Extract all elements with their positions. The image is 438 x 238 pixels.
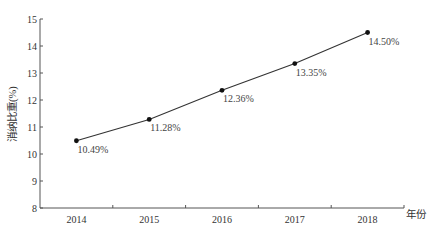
y-tick-label: 14 — [27, 41, 37, 52]
data-point-marker — [147, 117, 152, 122]
data-label: 11.28% — [150, 122, 180, 133]
data-series: 10.49%11.28%12.36%13.35%14.50% — [74, 30, 399, 155]
y-tick-label: 13 — [27, 68, 37, 79]
y-tick-label: 9 — [32, 176, 37, 187]
x-tick-label: 2018 — [358, 214, 378, 225]
line-chart: 89101112131415 20142015201620172018 10.4… — [0, 0, 438, 238]
data-label: 14.50% — [369, 36, 400, 47]
chart-canvas: 89101112131415 20142015201620172018 10.4… — [0, 0, 438, 238]
x-axis-title: 年份 — [406, 208, 427, 220]
series-line — [76, 33, 367, 141]
data-label: 12.36% — [223, 93, 254, 104]
data-point-marker — [74, 138, 79, 143]
x-tick-label: 2016 — [212, 214, 232, 225]
x-axis: 20142015201620172018 — [40, 205, 404, 225]
y-tick-label: 11 — [27, 122, 37, 133]
data-point-marker — [365, 30, 370, 35]
y-axis: 89101112131415 — [27, 14, 43, 214]
data-point-marker — [220, 88, 225, 93]
data-label: 13.35% — [296, 67, 327, 78]
x-tick-label: 2017 — [285, 214, 305, 225]
y-tick-label: 12 — [27, 95, 37, 106]
data-point-marker — [292, 61, 297, 66]
y-axis-title: 消纳比重(%) — [6, 86, 19, 142]
y-tick-label: 10 — [27, 149, 37, 160]
x-tick-label: 2014 — [66, 214, 86, 225]
y-tick-label: 15 — [27, 14, 37, 25]
x-tick-label: 2015 — [139, 214, 159, 225]
data-label: 10.49% — [77, 144, 108, 155]
y-tick-label: 8 — [32, 203, 37, 214]
